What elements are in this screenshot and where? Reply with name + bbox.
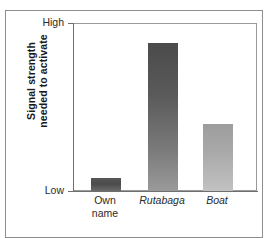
x-axis-labels: Own name Rutabaga Boat xyxy=(73,194,257,228)
figure: High Low Signal strength needed to activ… xyxy=(0,0,273,229)
bar-boat xyxy=(203,124,233,191)
bar-rutabaga xyxy=(148,43,178,191)
y-tick-low xyxy=(68,191,73,192)
x-category-label-own-name: Own name xyxy=(73,194,137,219)
y-axis-title: Signal strength needed to activate xyxy=(20,6,54,156)
bar-group xyxy=(74,24,256,191)
bar-own-name xyxy=(91,178,121,191)
x-category-label-own-name-line-2: name xyxy=(73,207,137,220)
x-category-label-boat: Boat xyxy=(185,194,249,207)
y-axis-title-line-1: Signal strength xyxy=(25,42,38,120)
x-category-label-rutabaga-text: Rutabaga xyxy=(139,194,185,206)
y-tick-high xyxy=(68,23,73,24)
x-category-label-boat-text: Boat xyxy=(206,194,228,206)
y-axis-title-line-2: needed to activate xyxy=(37,34,50,127)
x-axis-spine xyxy=(73,191,258,192)
x-category-label-own-name-line-1: Own xyxy=(94,194,116,206)
y-tick-label-low: Low xyxy=(45,185,64,196)
